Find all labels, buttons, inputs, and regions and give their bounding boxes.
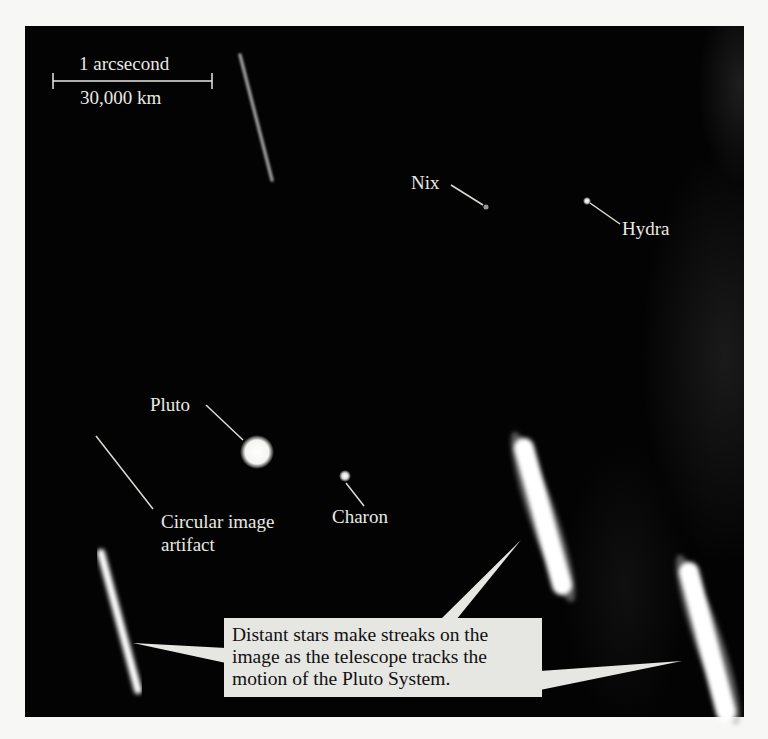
pluto-body: [240, 435, 274, 469]
nix-leader: [451, 185, 483, 205]
hydra-label: Hydra: [622, 219, 669, 239]
star-streak-left: [101, 553, 138, 690]
charon-body: [339, 470, 351, 482]
star-streak-middle: [500, 427, 585, 606]
callout-line-3: motion of the Pluto System.: [232, 668, 542, 690]
star-streak-callout: Distant stars make streaks on the image …: [224, 618, 542, 697]
artifact-label-line2: artifact: [161, 535, 215, 555]
pointer-top: [440, 540, 521, 620]
artifact-leader: [96, 436, 153, 509]
nix-body: [484, 205, 489, 210]
callout-line-1: Distant stars make streaks on the: [232, 624, 542, 646]
scale-bar-bottom-label: 30,000 km: [80, 88, 161, 108]
hydra-leader: [590, 203, 620, 224]
charon-leader: [346, 483, 364, 506]
pointer-left: [133, 643, 226, 663]
artifact-label-line1: Circular image: [161, 512, 274, 532]
pluto-label: Pluto: [150, 395, 190, 415]
hydra-body: [583, 197, 591, 205]
scale-bar-top-label: 1 arcsecond: [79, 54, 169, 74]
pointer-right: [540, 661, 682, 690]
star-streak-top: [240, 55, 272, 180]
charon-label: Charon: [332, 507, 388, 527]
nix-label: Nix: [411, 173, 440, 193]
leader-lines: [96, 185, 620, 509]
star-streak-right: [665, 550, 750, 729]
callout-line-2: image as the telescope tracks the: [232, 646, 542, 668]
pluto-leader: [206, 405, 243, 440]
